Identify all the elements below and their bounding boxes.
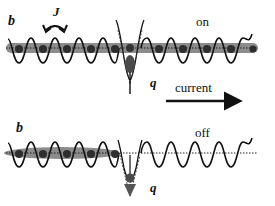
diagram-canvas: b J on q current: [0, 0, 275, 206]
impurity-label-q: q: [150, 75, 157, 90]
atomtronic-transistor-diagram: b J on q current: [0, 0, 275, 206]
hopping-label-J: J: [52, 4, 60, 19]
state-label-on: on: [196, 14, 210, 29]
impurity-top-atom: [126, 44, 134, 52]
site-label-b: b: [16, 120, 23, 135]
impurity-down-arrow-icon: [124, 184, 136, 197]
panel-off: b off q: [4, 120, 258, 197]
impurity-atom: [125, 55, 135, 73]
impurity-atom: [126, 174, 135, 183]
site-label-b: b: [8, 13, 15, 28]
current-label: current: [175, 80, 212, 95]
state-label-off: off: [195, 125, 211, 140]
impurity-label-q: q: [150, 180, 157, 195]
hopping-arrows-icon: [43, 25, 67, 32]
panel-on: b J on q current: [6, 4, 258, 101]
